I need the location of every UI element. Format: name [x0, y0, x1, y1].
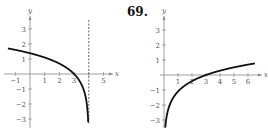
- x-axis-arrow-icon: [258, 74, 262, 77]
- graph-1: xy−11235−3−2−1123: [4, 7, 119, 128]
- figure: 69.xy−11235−3−2−1123xy123456−3−2−1123: [0, 0, 268, 138]
- x-tick-label: 1: [176, 78, 180, 86]
- y-axis-arrow-icon: [29, 16, 32, 20]
- y-tick-label: −3: [16, 116, 26, 124]
- y-tick-label: −1: [16, 86, 26, 94]
- y-tick-label: 3: [156, 27, 160, 35]
- x-tick-label: 6: [246, 78, 251, 86]
- function-curve: [165, 63, 255, 127]
- y-axis-label: y: [161, 7, 167, 15]
- y-axis-arrow-icon: [163, 16, 166, 20]
- x-tick-label: 1: [42, 77, 46, 85]
- x-axis-arrow-icon: [109, 73, 113, 76]
- x-axis-label: x: [115, 70, 119, 78]
- x-tick-label: 5: [232, 78, 236, 86]
- y-tick-label: 1: [156, 57, 160, 65]
- x-tick-label: 2: [57, 77, 61, 85]
- problem-number: 69.: [127, 5, 148, 19]
- y-tick-label: 2: [22, 41, 26, 49]
- y-tick-label: −2: [16, 101, 26, 109]
- x-tick-label: 3: [204, 78, 208, 86]
- y-tick-label: 3: [22, 26, 26, 34]
- x-tick-label: 3: [72, 77, 76, 85]
- graph-2: xy123456−3−2−1123: [150, 7, 268, 128]
- y-tick-label: 1: [22, 56, 26, 64]
- x-axis-label: x: [264, 71, 268, 79]
- y-axis-label: y: [27, 7, 33, 15]
- y-tick-label: −1: [150, 87, 160, 95]
- y-tick-label: −3: [150, 117, 160, 125]
- y-tick-label: −2: [150, 102, 160, 110]
- x-tick-label: 5: [101, 77, 105, 85]
- x-tick-label: 4: [218, 78, 223, 86]
- graphs-canvas: 69.xy−11235−3−2−1123xy123456−3−2−1123: [0, 0, 268, 138]
- y-tick-label: 2: [156, 42, 160, 50]
- x-tick-label: −1: [10, 77, 20, 85]
